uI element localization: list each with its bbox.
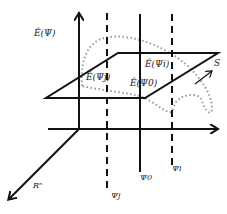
label-point-j: Ê(Ψj): [85, 71, 111, 82]
label-y-axis: Ê(Ψ): [33, 27, 56, 38]
label-rn: Rⁿ: [32, 181, 42, 190]
diagram-canvas: Ê(Ψ) Ê(Ψj) Ê(Ψi) Ê(Ψ0) S Rⁿ Ψj Ψ0 Ψi: [0, 0, 227, 214]
label-psi-i: Ψi: [172, 164, 182, 173]
label-point-i: Ê(Ψi): [144, 58, 170, 69]
label-surface: S: [214, 58, 220, 68]
surface-arrow: [195, 71, 212, 84]
plane-parallelogram: [46, 53, 218, 98]
rn-axis: [9, 129, 79, 199]
label-psi-0: Ψ0: [140, 173, 152, 182]
label-psi-j: Ψj: [111, 191, 121, 200]
label-point-0: Ê(Ψ0): [129, 77, 158, 88]
